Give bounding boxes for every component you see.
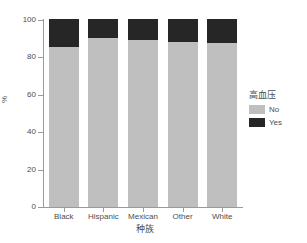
stacked-bar[interactable]	[207, 19, 237, 207]
y-tick-label: 60	[2, 91, 36, 99]
stacked-bar[interactable]	[168, 19, 198, 207]
bar-segment-yes[interactable]	[168, 19, 198, 42]
bar-group[interactable]	[88, 19, 118, 207]
y-tick-mark	[38, 207, 43, 208]
y-tick-mark	[38, 20, 43, 21]
y-tick-label-wrap: 0	[0, 203, 36, 211]
y-tick-label-wrap: 60	[0, 91, 36, 99]
bar-segment-no[interactable]	[128, 40, 158, 207]
legend-items: NoYes	[249, 104, 305, 128]
plot-area	[44, 19, 242, 207]
stacked-bar[interactable]	[88, 19, 118, 207]
stacked-bar[interactable]	[49, 19, 79, 207]
y-tick-label-wrap: 100	[0, 16, 36, 24]
legend-swatch-icon	[249, 105, 265, 114]
legend-item-label: No	[269, 105, 279, 114]
legend-item-label: Yes	[269, 118, 282, 127]
y-tick-mark	[38, 57, 43, 58]
chart-figure: % 020406080100 BlackHispanicMexicanOther…	[0, 0, 307, 243]
bar-segment-yes[interactable]	[128, 19, 158, 40]
bar-segment-yes[interactable]	[88, 19, 118, 38]
y-tick-label-wrap: 20	[0, 166, 36, 174]
bar-segment-no[interactable]	[207, 43, 237, 207]
legend: 高血压 NoYes	[249, 90, 305, 130]
x-axis-title: 种族	[0, 224, 290, 234]
y-tick-label: 40	[2, 128, 36, 136]
bar-segment-no[interactable]	[88, 38, 118, 207]
y-tick-label: 100	[2, 16, 36, 24]
bar-group[interactable]	[207, 19, 237, 207]
bar-segment-yes[interactable]	[207, 19, 237, 43]
legend-swatch-icon	[249, 118, 265, 127]
y-tick-mark	[38, 95, 43, 96]
bar-segment-no[interactable]	[168, 42, 198, 207]
y-tick-label-wrap: 40	[0, 128, 36, 136]
bar-group[interactable]	[128, 19, 158, 207]
legend-item[interactable]: Yes	[249, 117, 305, 128]
y-tick-label-wrap: 80	[0, 53, 36, 61]
bar-group[interactable]	[49, 19, 79, 207]
y-tick-label: 0	[2, 203, 36, 211]
bar-group[interactable]	[168, 19, 198, 207]
legend-item[interactable]: No	[249, 104, 305, 115]
y-tick-label: 80	[2, 53, 36, 61]
bar-segment-yes[interactable]	[49, 19, 79, 47]
plot-panel	[44, 19, 242, 208]
x-tick-label: White	[194, 212, 250, 222]
y-tick-mark	[38, 170, 43, 171]
bar-segment-no[interactable]	[49, 47, 79, 207]
y-tick-label: 20	[2, 166, 36, 174]
y-tick-mark	[38, 132, 43, 133]
stacked-bar[interactable]	[128, 19, 158, 207]
legend-title: 高血压	[249, 90, 305, 101]
